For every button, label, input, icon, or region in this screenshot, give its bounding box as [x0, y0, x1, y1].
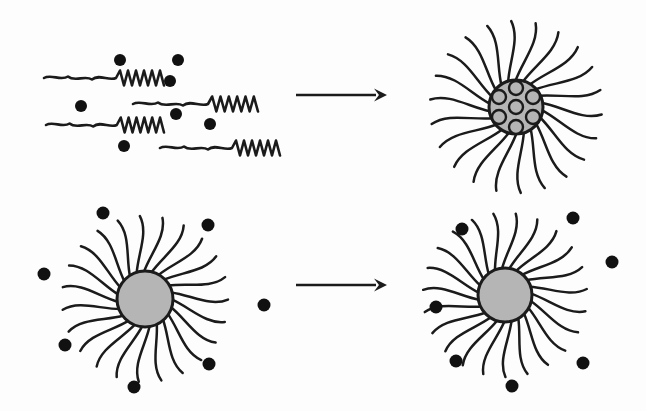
encapsulated-solute — [509, 100, 523, 114]
solute-particle — [203, 358, 216, 371]
solute-particle — [606, 256, 619, 269]
solute-particle — [118, 140, 130, 152]
micelle-tail — [423, 288, 479, 300]
solute-particle — [204, 118, 216, 130]
panel-empty-micelle-left — [38, 207, 271, 394]
micelle-tail — [144, 218, 163, 272]
encapsulated-solute — [509, 120, 523, 134]
micelle-tail — [137, 216, 144, 273]
solute-particle — [172, 54, 184, 66]
solute-particle — [456, 223, 469, 236]
encapsulated-solute — [492, 90, 506, 104]
micelle-tail — [168, 277, 225, 285]
micelle-core — [117, 271, 173, 327]
micelle-tail — [524, 313, 548, 365]
micelle-tail — [530, 287, 587, 293]
encapsulated-solute — [492, 110, 506, 124]
solute-particle — [114, 54, 126, 66]
micelle-tail — [483, 321, 505, 374]
micelle-tail — [155, 323, 161, 380]
surfactant-chain — [44, 71, 164, 86]
encapsulated-solute — [526, 110, 540, 124]
micelle-tail — [493, 214, 498, 271]
solute-particle — [577, 357, 590, 370]
micelle-tail — [171, 292, 228, 302]
encapsulated-solute — [526, 90, 540, 104]
micelle-tail — [517, 132, 524, 193]
micelle-tail — [432, 118, 493, 124]
solute-particle — [506, 380, 519, 393]
surfactant-chain — [133, 97, 258, 112]
panel-empty-micelle-right — [423, 212, 618, 393]
micelle-tail — [69, 265, 118, 294]
micelle-tail — [117, 326, 143, 377]
micelle-tail — [163, 319, 183, 373]
reaction-arrows — [296, 89, 387, 292]
surfactant-chain — [46, 118, 164, 133]
micelle-tail — [503, 320, 512, 377]
solute-particle — [170, 108, 182, 120]
encapsulated-solute — [509, 81, 523, 95]
solute-particle — [450, 355, 463, 368]
solute-particle — [258, 299, 271, 312]
micelle-tail — [535, 67, 592, 90]
micelle-tail — [164, 256, 216, 279]
panel-free-chains — [44, 54, 280, 156]
solute-particle — [128, 381, 141, 394]
micelle-tail — [508, 21, 515, 82]
solute-particle — [97, 207, 110, 220]
solute-particle — [38, 268, 51, 281]
micelle-tail — [440, 124, 497, 147]
micelle-tail — [496, 133, 517, 191]
solute-particle — [430, 301, 443, 314]
micelle-encapsulation-diagram — [0, 0, 646, 411]
micelle-tail — [518, 317, 527, 373]
surfactant-chain — [160, 141, 280, 156]
solute-particle — [59, 339, 72, 352]
solute-particle — [164, 75, 176, 87]
micelle-tail — [436, 76, 490, 104]
micelle-tail — [539, 90, 600, 96]
micelle-tail — [509, 220, 537, 270]
solute-particle — [75, 100, 87, 112]
micelle-tail — [69, 315, 124, 331]
micelle-tail — [515, 23, 536, 81]
solute-particle — [567, 212, 580, 225]
micelle-tail — [542, 110, 596, 138]
solute-particle — [202, 219, 215, 232]
micelle-tail — [472, 220, 489, 275]
diagram-canvas — [0, 0, 646, 411]
panel-loaded-micelle — [430, 21, 601, 193]
micelle-tail — [63, 305, 120, 310]
micelle-core — [478, 268, 532, 322]
micelle-tail — [432, 312, 485, 333]
